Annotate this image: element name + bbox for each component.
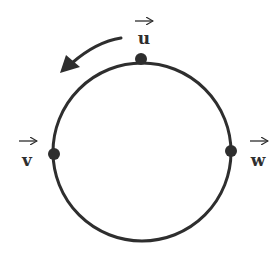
circle-diagram: u v w [0, 0, 279, 255]
label-u: u [138, 28, 150, 48]
diagram-canvas: u v w [0, 0, 279, 255]
counterclockwise-arrow [72, 38, 121, 63]
main-circle [53, 63, 231, 241]
point-v [48, 148, 60, 160]
point-w [225, 145, 237, 157]
point-u [135, 53, 147, 65]
label-v: v [21, 150, 33, 170]
label-w: w [250, 150, 266, 170]
